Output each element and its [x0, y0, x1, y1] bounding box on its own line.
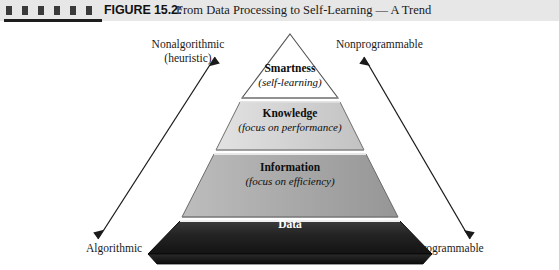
header-tick: [38, 6, 44, 15]
axis-label-nonalgorithmic-line1: Nonalgorithmic: [128, 38, 248, 52]
pyramid-diagram: Smartness (self-learning) Knowledge (foc…: [0, 21, 559, 270]
axis-label-programmable: Programmable: [416, 242, 484, 256]
header-tick: [86, 6, 92, 15]
figure-header-band: FIGURE 15.2: From Data Processing to Sel…: [0, 0, 559, 21]
header-tick-marks: [6, 6, 92, 15]
header-tick: [54, 6, 60, 15]
pyramid-svg: [0, 21, 559, 270]
tier-shape-smartness: [242, 34, 338, 98]
figure-root: FIGURE 15.2: From Data Processing to Sel…: [0, 0, 559, 270]
figure-title: From Data Processing to Self-Learning — …: [176, 3, 431, 18]
header-tick: [6, 6, 12, 15]
tier-shape-information: [182, 154, 398, 217]
header-tick: [70, 6, 76, 15]
header-tick: [22, 6, 28, 15]
figure-number-label: FIGURE 15.2:: [104, 3, 182, 17]
axis-label-nonprogrammable: Nonprogrammable: [336, 38, 423, 52]
tier-shape-data: [148, 221, 432, 264]
axis-label-algorithmic: Algorithmic: [86, 242, 142, 256]
axis-label-nonalgorithmic: Nonalgorithmic (heuristic): [128, 38, 248, 66]
axis-label-nonalgorithmic-line2: (heuristic): [128, 52, 248, 66]
tier-shape-knowledge: [216, 102, 364, 150]
